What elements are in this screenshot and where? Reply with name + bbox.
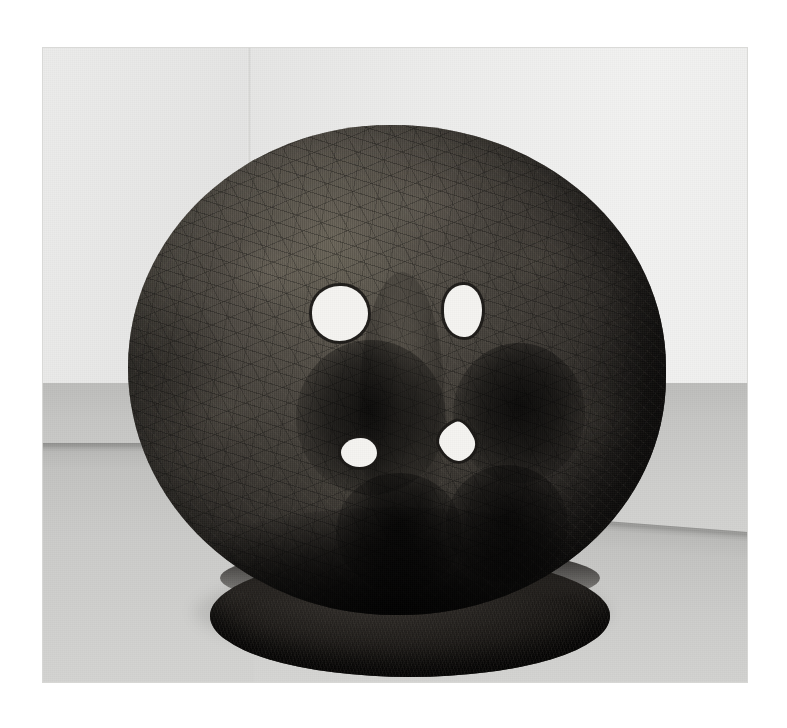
photo-page: large spherical sculpture on an oval pli… bbox=[0, 0, 787, 728]
sphere-body bbox=[128, 125, 666, 615]
photograph bbox=[42, 47, 748, 683]
image-subject-text: large spherical sculpture on an oval pli… bbox=[0, 0, 1, 1]
sculpture-sphere bbox=[128, 125, 666, 615]
aperture-upper-right bbox=[444, 285, 482, 337]
sphere-central-ridge bbox=[359, 272, 445, 546]
aperture-lower-left bbox=[341, 438, 377, 467]
aperture-upper-left bbox=[312, 286, 368, 341]
